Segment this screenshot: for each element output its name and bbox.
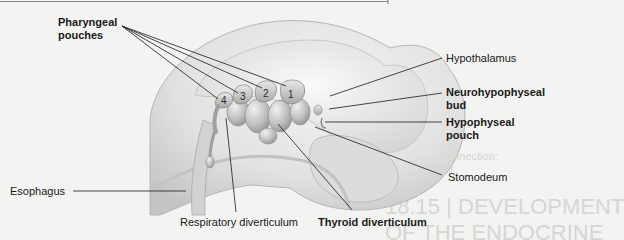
label-hypophyseal-pouch-line1: Hypophyseal [446, 116, 514, 129]
label-hypophyseal-pouch-line2: pouch [446, 129, 514, 142]
label-neurohypophyseal-bud-line2: bud [446, 99, 545, 112]
label-stomodeum: Stomodeum [448, 171, 507, 184]
pouch-number-4: 4 [221, 95, 227, 106]
label-pharyngeal-pouches-line1: Pharyngeal [58, 16, 117, 29]
label-respiratory-diverticulum: Respiratory diverticulum [180, 216, 298, 229]
pouch-number-2: 2 [263, 88, 269, 99]
label-pharyngeal-pouches-line2: pouches [58, 29, 117, 42]
top-frame [0, 0, 388, 4]
label-neurohypophyseal-bud-line1: Neurohypophyseal [446, 86, 545, 99]
label-hypophyseal-pouch: Hypophyseal pouch [446, 116, 514, 142]
label-esophagus: Esophagus [10, 185, 65, 198]
pouch-number-3: 3 [240, 91, 246, 102]
label-neurohypophyseal-bud: Neurohypophyseal bud [446, 86, 545, 112]
label-pharyngeal-pouches: Pharyngeal pouches [58, 16, 117, 42]
label-hypothalamus: Hypothalamus [446, 52, 516, 65]
pouch-number-1: 1 [288, 89, 294, 100]
label-thyroid-diverticulum: Thyroid diverticulum [318, 216, 427, 229]
